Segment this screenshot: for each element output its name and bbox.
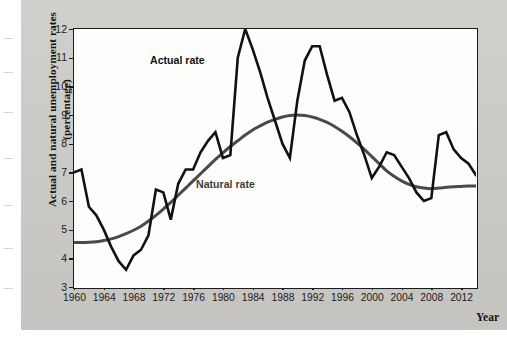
y-tick-label: 8 (47, 137, 67, 149)
y-tick-label: 7 (47, 166, 67, 178)
natural-rate-annotation: Natural rate (196, 178, 255, 190)
page-edge-strip (0, 0, 21, 342)
natural-rate-line (74, 115, 476, 243)
y-tick-label: 11 (47, 51, 67, 63)
y-tick-label: 9 (47, 109, 67, 121)
y-tick-label: 10 (47, 80, 67, 92)
y-tick-label: 6 (47, 195, 67, 207)
series-canvas (74, 29, 476, 287)
y-tick-label: 3 (47, 281, 67, 293)
y-tick-label: 4 (47, 252, 67, 264)
actual-rate-annotation: Actual rate (150, 54, 205, 66)
x-axis-title: Year (476, 311, 499, 323)
y-tick-label: 5 (47, 223, 67, 235)
figure-container: Actual and natural unemployment rates (p… (0, 0, 507, 342)
y-tick-label: 12 (47, 23, 67, 35)
actual-rate-line (74, 29, 476, 270)
x-tick-label: 2012 (439, 292, 485, 303)
plot-area (73, 28, 478, 289)
